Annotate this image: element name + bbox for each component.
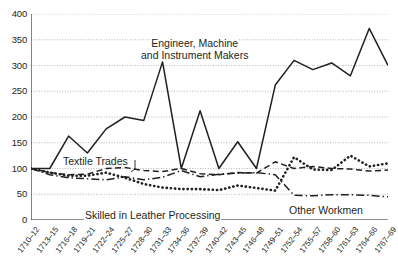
annotation-textile-trades-label: Textile Trades: [62, 155, 129, 167]
annotation-engineer-line1: Engineer, Machine: [150, 37, 239, 49]
y-axis-tick-label: 100: [12, 164, 27, 174]
y-axis-tick-label: 50: [17, 190, 27, 200]
annotation-textile-trades: Textile Trades: [62, 155, 129, 167]
y-axis-tick-label: 150: [12, 138, 27, 148]
annotation-skilled-in-leather-processing: Skilled in Leather Processing: [84, 209, 221, 221]
y-axis-tick-label: 250: [12, 87, 27, 97]
y-axis-tick-label: 300: [12, 61, 27, 71]
y-axis-tick-label: 350: [12, 35, 27, 45]
annotation-leather-label: Skilled in Leather Processing: [84, 209, 221, 221]
annotation-other-workmen: Other Workmen: [288, 204, 364, 216]
annotation-other-workmen-label: Other Workmen: [288, 204, 364, 216]
y-axis-tick-label: 200: [12, 112, 27, 122]
y-axis-tick-label: 0: [22, 215, 27, 225]
annotation-engineer-line2: and Instrument Makers: [140, 49, 249, 61]
annotation-engineer-machine-instrument-makers: Engineer, Machine and Instrument Makers: [140, 37, 249, 61]
x-axis: 1710–121713–151716–181719–211722–241725–…: [31, 226, 388, 278]
y-axis: 050100150200250300350400: [0, 0, 27, 278]
y-axis-tick-label: 400: [12, 9, 27, 19]
